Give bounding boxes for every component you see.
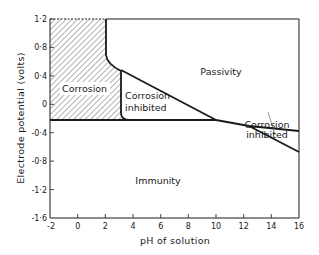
region-label-immunity: Immunity bbox=[135, 175, 181, 186]
x-tick-label: 2 bbox=[103, 222, 108, 231]
y-tick-label: 0·4 bbox=[34, 72, 47, 81]
y-tick-label: -0·8 bbox=[31, 157, 47, 166]
region-label-inhibited-right: inhibited bbox=[246, 129, 288, 140]
x-tick-label: 14 bbox=[266, 222, 276, 231]
y-tick-label: 0 bbox=[42, 100, 47, 109]
region-label-passivity: Passivity bbox=[200, 66, 242, 77]
x-tick-label: 10 bbox=[211, 222, 221, 231]
y-tick-label: -1·6 bbox=[31, 214, 47, 223]
region-label-corrosion: Corrosion bbox=[62, 83, 107, 94]
y-tick-label: -0·4 bbox=[31, 129, 47, 138]
x-tick-label: 8 bbox=[186, 222, 191, 231]
region-label-inhibited-left: Corrosion bbox=[125, 90, 170, 101]
x-tick-label: 0 bbox=[75, 222, 80, 231]
x-tick-label: 6 bbox=[158, 222, 163, 231]
pourbaix-diagram: 1·2 0·8 0·4 0 -0·4 -0·8 -1·2 -1·6 -2 0 2… bbox=[0, 0, 319, 255]
x-tick-label: -2 bbox=[47, 222, 55, 231]
region-label-inhibited-left: inhibited bbox=[125, 102, 167, 113]
x-tick-label: 12 bbox=[239, 222, 249, 231]
x-ticks bbox=[78, 214, 272, 218]
y-axis-title: Electrode potential (volts) bbox=[15, 52, 26, 183]
x-axis-title: pH of solution bbox=[140, 235, 210, 246]
y-tick-label: 0·8 bbox=[34, 43, 47, 52]
x-tick-label: 4 bbox=[130, 222, 135, 231]
y-tick-label: 1·2 bbox=[34, 15, 47, 24]
x-tick-label: 16 bbox=[294, 222, 304, 231]
y-tick-label: -1·2 bbox=[31, 186, 47, 195]
